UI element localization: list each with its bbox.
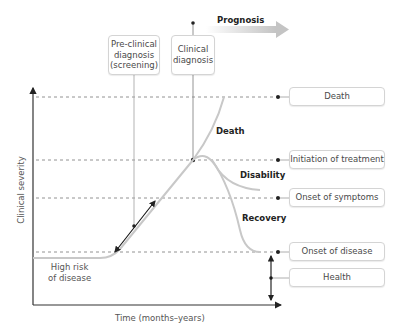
stage-box-death: Death (289, 87, 385, 106)
baseline-label: High risk of disease (48, 262, 91, 284)
disease-curve (33, 97, 260, 258)
stage-box-disease: Onset of disease (289, 242, 385, 261)
prognosis-label: Prognosis (217, 15, 264, 25)
outcome-disability: Disability (240, 170, 285, 180)
clinical-diagnosis-box: Clinical diagnosis (171, 35, 215, 75)
preclinical-diagnosis-box: Pre-clinical diagnosis (screening) (108, 35, 160, 75)
y-axis-label: Clinical severity (16, 155, 26, 225)
x-axis-label: Time (months–years) (115, 313, 205, 323)
stage-box-initiation: Initiation of treatment (289, 150, 385, 169)
stage-box-symptoms: Onset of symptoms (289, 188, 385, 207)
outcome-death: Death (216, 126, 245, 136)
outcome-recovery: Recovery (242, 213, 286, 223)
stage-box-health: Health (289, 268, 385, 287)
